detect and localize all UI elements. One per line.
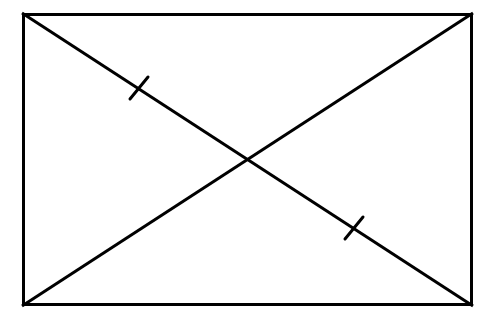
geometry-figure <box>0 0 484 319</box>
geometry-canvas <box>0 0 484 319</box>
figure-background <box>0 0 484 319</box>
